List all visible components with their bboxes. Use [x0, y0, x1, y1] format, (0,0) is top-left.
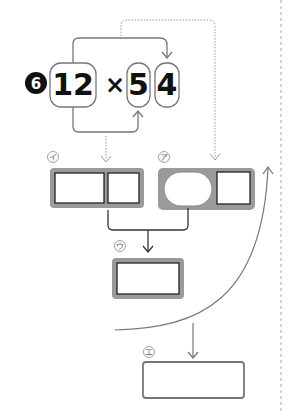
- svg-text:6: 6: [31, 75, 41, 93]
- label-a-badge: ア: [159, 152, 170, 163]
- answer-box-i-left[interactable]: [55, 173, 104, 203]
- diagram-canvas: 6 12 × 5 4 イ ア ウ: [0, 0, 288, 411]
- svg-text:5: 5: [128, 67, 149, 102]
- multiplier-ones-box: 4: [155, 63, 179, 107]
- bracket-sum: [108, 208, 188, 230]
- answer-box-e[interactable]: [143, 362, 244, 398]
- dotted-arrowhead-i-icon: [101, 156, 111, 162]
- multiply-sign: ×: [105, 71, 125, 99]
- label-e-badge: エ: [144, 347, 155, 358]
- problem-number-badge: 6: [25, 72, 47, 94]
- label-i-badge: イ: [48, 152, 59, 163]
- answer-box-a-right[interactable]: [217, 172, 250, 204]
- answer-oval-a[interactable]: [164, 172, 212, 206]
- arrow-12-to-4: [73, 38, 167, 63]
- svg-text:エ: エ: [145, 348, 153, 357]
- dotted-arrowhead-a-icon: [210, 154, 220, 160]
- svg-text:4: 4: [157, 67, 178, 102]
- arrow-12-to-5: [73, 107, 138, 132]
- svg-text:ウ: ウ: [116, 242, 124, 251]
- label-u-badge: ウ: [115, 241, 126, 252]
- answer-box-u[interactable]: [117, 263, 179, 294]
- svg-text:ア: ア: [160, 153, 168, 162]
- answer-group-i: [50, 168, 144, 208]
- svg-text:イ: イ: [49, 153, 57, 162]
- answer-group-a: [158, 168, 255, 210]
- answer-box-i-right[interactable]: [108, 173, 139, 203]
- answer-group-u: [112, 258, 184, 299]
- multiplier-tens-box: 5: [127, 63, 150, 107]
- multiplicand-box: 12: [50, 63, 96, 107]
- svg-text:12: 12: [52, 67, 94, 102]
